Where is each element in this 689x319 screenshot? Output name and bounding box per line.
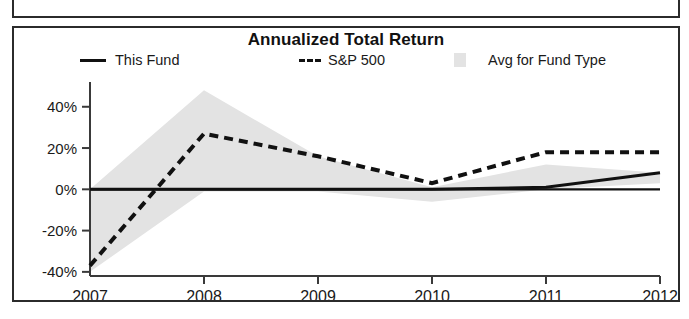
legend-item-this-fund: This Fund [80, 52, 179, 68]
y-axis-labels: 40%20%0%-20%-40% [42, 98, 77, 280]
legend-label-avg-for-fund-type: Avg for Fund Type [488, 52, 606, 68]
chart-title: Annualized Total Return [14, 30, 678, 50]
y-axis-tick-label: 20% [47, 140, 77, 157]
legend-item-avg-for-fund-type: Avg for Fund Type [454, 52, 606, 68]
legend-item-sp500: S&P 500 [299, 52, 385, 68]
y-axis-tick-label: 40% [47, 98, 77, 115]
solid-line-swatch-icon [80, 59, 106, 62]
x-axis-tick-label: 2007 [72, 288, 108, 300]
return-chart-svg: 40%20%0%-20%-40% 20072008200920102011201… [14, 76, 678, 300]
cropped-top-box [12, 0, 680, 18]
gray-box-swatch-icon [454, 53, 466, 67]
y-axis-tick-label: -40% [42, 263, 77, 280]
x-axis-tick-label: 2011 [529, 288, 564, 300]
y-axis-tick-label: -20% [42, 222, 77, 239]
annualized-total-return-card: Annualized Total Return This Fund S&P 50… [12, 26, 680, 302]
dashed-line-swatch-icon [299, 59, 321, 62]
legend-label-this-fund: This Fund [115, 52, 179, 68]
x-axis-tick-label: 2009 [300, 288, 336, 300]
y-axis-tick-label: 0% [55, 181, 77, 198]
x-axis-tick-label: 2010 [414, 288, 450, 300]
chart-legend: This Fund S&P 500 Avg for Fund Type [14, 52, 678, 74]
plot-area: 40%20%0%-20%-40% 20072008200920102011201… [14, 76, 678, 300]
x-axis-tick-label: 2012 [642, 288, 678, 300]
x-axis-labels: 200720082009201020112012YTD [72, 288, 678, 300]
x-axis-ticks [204, 276, 660, 284]
avg-for-fund-type-band [90, 90, 660, 272]
x-axis-tick-label: 2008 [186, 288, 222, 300]
legend-label-sp500: S&P 500 [328, 52, 385, 68]
y-axis-ticks [82, 107, 90, 272]
